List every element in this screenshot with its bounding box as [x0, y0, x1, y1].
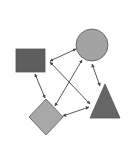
diagram-shapes [16, 29, 120, 135]
triangle-shape [90, 84, 120, 118]
arrow-circle-triangle [92, 64, 100, 86]
diagram-canvas [0, 0, 136, 143]
diamond-shape [29, 99, 63, 135]
square-shape [16, 49, 45, 72]
arrow-square-right-triangle [50, 62, 90, 104]
arrow-circle-diamond [55, 60, 82, 106]
circle-shape [76, 29, 108, 61]
arrow-square-diamond [35, 74, 45, 98]
arrow-triangle-diamond [63, 107, 89, 116]
arrow-circle-square-right [50, 49, 76, 61]
